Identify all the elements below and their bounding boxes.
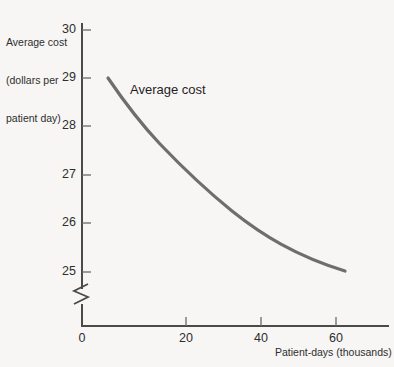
- y-tick-label-29: 29: [50, 70, 76, 85]
- x-tick-label-60: 60: [321, 331, 351, 346]
- y-axis-break-icon: [74, 284, 88, 304]
- x-axis-title: Patient-days (thousands): [275, 346, 392, 359]
- x-tick-label-0: 0: [67, 331, 97, 346]
- y-tick-label-26: 26: [50, 215, 76, 230]
- curve-annotation-label: Average cost: [130, 82, 206, 98]
- y-tick-label-27: 27: [50, 167, 76, 182]
- y-axis-title-line-1: Average cost: [6, 36, 82, 49]
- chart-container: Average cost (dollars per patient day) 3…: [0, 0, 394, 367]
- y-tick-label-28: 28: [50, 118, 76, 133]
- average-cost-curve: [108, 78, 345, 271]
- x-tick-label-40: 40: [246, 331, 276, 346]
- y-tick-label-25: 25: [50, 264, 76, 279]
- y-tick-label-30: 30: [50, 22, 76, 37]
- x-tick-label-20: 20: [171, 331, 201, 346]
